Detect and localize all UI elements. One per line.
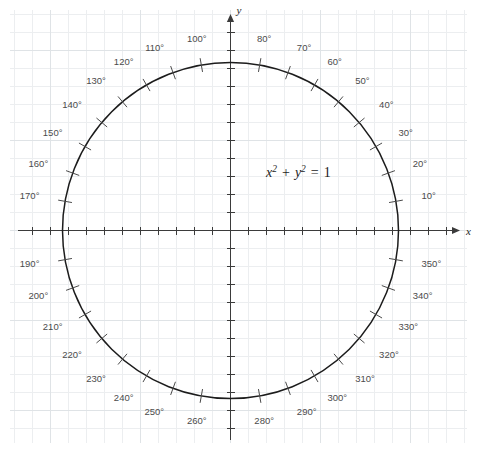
degree-label-170: 170° bbox=[20, 190, 40, 201]
degree-label-250: 250° bbox=[144, 406, 164, 417]
degree-label-210: 210° bbox=[43, 321, 63, 332]
equation-y-exponent: 2 bbox=[301, 164, 306, 174]
equation-equals-operator: = bbox=[311, 165, 319, 180]
degree-label-160: 160° bbox=[29, 158, 49, 169]
degree-label-150: 150° bbox=[43, 127, 63, 138]
x-axis-label: x bbox=[465, 225, 471, 237]
degree-label-20: 20° bbox=[413, 158, 428, 169]
degree-label-200: 200° bbox=[29, 290, 49, 301]
degree-label-120: 120° bbox=[114, 56, 134, 67]
degree-label-130: 130° bbox=[86, 75, 106, 86]
degree-label-80: 80° bbox=[257, 33, 272, 44]
degree-label-60: 60° bbox=[328, 56, 343, 67]
degree-label-230: 230° bbox=[86, 373, 106, 384]
unit-circle-diagram: 10°20°30°40°50°60°70°80°100°110°120°130°… bbox=[0, 0, 477, 459]
degree-label-310: 310° bbox=[355, 373, 375, 384]
degree-label-290: 290° bbox=[297, 406, 317, 417]
degree-label-190: 190° bbox=[20, 258, 40, 269]
degree-label-350: 350° bbox=[422, 258, 442, 269]
degree-label-30: 30° bbox=[399, 127, 414, 138]
degree-label-220: 220° bbox=[62, 349, 82, 360]
degree-label-280: 280° bbox=[254, 415, 274, 426]
degree-label-260: 260° bbox=[187, 415, 207, 426]
degree-label-240: 240° bbox=[114, 392, 134, 403]
degree-label-50: 50° bbox=[355, 75, 370, 86]
equation-value: 1 bbox=[324, 165, 331, 180]
degree-label-340: 340° bbox=[413, 290, 433, 301]
equation-x-exponent: 2 bbox=[272, 164, 277, 174]
degree-label-140: 140° bbox=[62, 99, 82, 110]
degree-label-70: 70° bbox=[297, 42, 312, 53]
y-axis-label: y bbox=[236, 4, 242, 16]
degree-label-300: 300° bbox=[328, 392, 348, 403]
degree-label-320: 320° bbox=[379, 349, 399, 360]
degree-label-40: 40° bbox=[379, 99, 394, 110]
degree-label-110: 110° bbox=[145, 42, 164, 53]
degree-label-330: 330° bbox=[399, 321, 419, 332]
equation-plus-operator: + bbox=[282, 165, 290, 180]
degree-label-10: 10° bbox=[422, 190, 437, 201]
degree-label-100: 100° bbox=[187, 33, 207, 44]
unit-circle-figure-root: 10°20°30°40°50°60°70°80°100°110°120°130°… bbox=[0, 0, 477, 459]
